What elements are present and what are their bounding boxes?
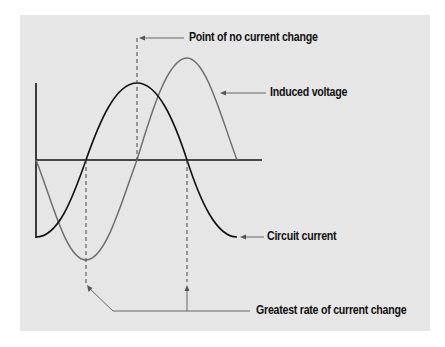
label-circuit-current: Circuit current bbox=[267, 229, 336, 243]
arrowhead-icon bbox=[185, 285, 190, 291]
arrowhead-icon bbox=[220, 91, 226, 96]
label-induced-voltage: Induced voltage bbox=[270, 85, 347, 99]
leader-greatest-rate bbox=[89, 288, 250, 311]
waveform-diagram bbox=[0, 0, 445, 347]
arrowhead-icon bbox=[240, 235, 246, 240]
label-greatest-rate-of-current-change: Greatest rate of current change bbox=[256, 303, 406, 317]
arrowhead-icon bbox=[139, 36, 145, 41]
label-point-of-no-current-change: Point of no current change bbox=[189, 30, 318, 44]
